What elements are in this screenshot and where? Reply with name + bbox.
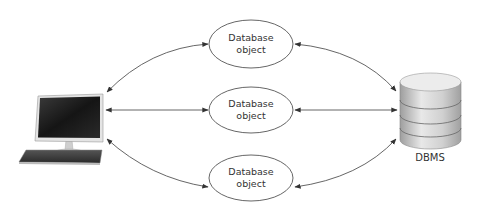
edge-client-object-1 (107, 44, 208, 92)
dbms-label: DBMS (400, 152, 460, 163)
diagram-canvas: Database object Database object Database… (0, 0, 485, 219)
database-object-2-line2: object (209, 110, 293, 122)
database-object-1-line1: Database (209, 32, 293, 44)
edge-client-object-3 (107, 139, 208, 187)
database-cylinder-icon (400, 73, 461, 149)
database-object-2-label: Database object (209, 98, 293, 122)
database-object-3-line2: object (209, 178, 293, 190)
desktop-computer-icon (19, 94, 103, 165)
edge-object-3-dbms (295, 139, 396, 187)
database-object-1-label: Database object (209, 32, 293, 56)
database-object-3-line1: Database (209, 166, 293, 178)
database-object-3-label: Database object (209, 166, 293, 190)
edge-object-1-dbms (295, 44, 396, 91)
database-object-1-line2: object (209, 44, 293, 56)
database-object-2-line1: Database (209, 98, 293, 110)
